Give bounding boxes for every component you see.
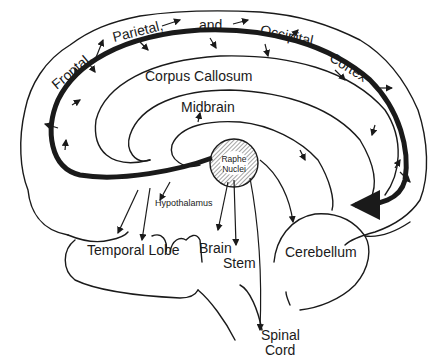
cerebellum-outline <box>274 214 369 310</box>
label-temporal-lobe: Temporal Lobe <box>87 243 180 257</box>
label-raphe-nuclei: Raphe Nuclei <box>220 155 248 175</box>
label-corpus-callosum: Corpus Callosum <box>145 69 252 83</box>
label-spinal: Spinal <box>261 328 300 342</box>
label-stem: Stem <box>223 256 256 270</box>
label-brain: Brain <box>199 241 232 255</box>
label-and: and <box>199 18 222 32</box>
brain-stem-outline <box>198 285 262 340</box>
label-midbrain: Midbrain <box>181 100 235 114</box>
label-cord: Cord <box>265 343 295 357</box>
brain-outline-drawing <box>0 0 439 360</box>
brain-diagram: Frontal, Parietal, and Occipital Cortex … <box>0 0 439 360</box>
label-nuclei: Nuclei <box>220 165 248 175</box>
cortex-outline <box>21 11 427 245</box>
label-cerebellum: Cerebellum <box>285 245 357 259</box>
label-hypothalamus: Hypothalamus <box>155 199 213 208</box>
